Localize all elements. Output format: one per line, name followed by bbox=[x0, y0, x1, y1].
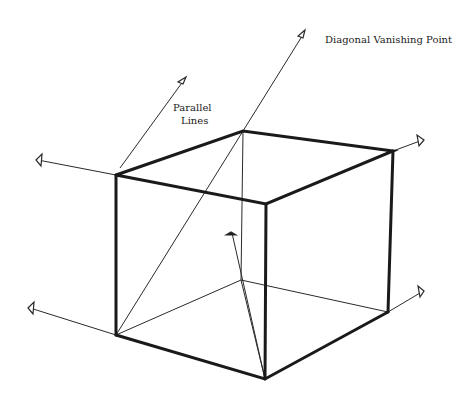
hidden-bottom-edge-right bbox=[241, 280, 388, 312]
parallel-lines-label-line1: Parallel bbox=[173, 101, 212, 114]
left-top-extension-line bbox=[38, 160, 116, 175]
front-vertical-edge bbox=[265, 204, 266, 379]
arrowhead-icon bbox=[178, 77, 186, 84]
hidden-bottom-edge-left bbox=[116, 280, 241, 335]
diagonal-line-to-vanishing-point bbox=[116, 33, 304, 335]
parallel-lines-label-line2: Lines bbox=[181, 114, 208, 127]
cube-perspective-diagram bbox=[0, 0, 474, 414]
arrowhead-icon bbox=[418, 286, 424, 297]
top-face-edges bbox=[116, 131, 393, 204]
diagonal-vanishing-point-label: Diagonal Vanishing Point bbox=[325, 33, 452, 46]
arrowhead-icon bbox=[298, 30, 305, 38]
right-bottom-extension-line bbox=[388, 293, 420, 312]
right-top-extension-line bbox=[393, 141, 420, 151]
hidden-vertical-edge bbox=[241, 131, 243, 280]
arrowhead-icon bbox=[36, 154, 42, 166]
right-vertical-edge bbox=[388, 151, 393, 312]
left-bottom-extension-line bbox=[30, 308, 116, 335]
arrowhead-icon bbox=[226, 232, 236, 235]
arrowhead-icon bbox=[417, 135, 424, 146]
arrowhead-icon bbox=[28, 302, 34, 314]
up-arrow-line bbox=[232, 233, 265, 379]
